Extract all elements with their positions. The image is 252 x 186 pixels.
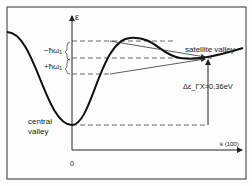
absorption-arrow — [110, 59, 205, 74]
brace-lower — [65, 59, 70, 74]
origin-label: 0 — [70, 160, 74, 167]
phonon-absorption-label: +ħω₁ — [44, 62, 62, 71]
border — [7, 7, 246, 179]
diagram-frame: ε −ħω₁ +ħω₁ satellite valley Δε_ΓX=0.36e… — [0, 0, 252, 186]
energy-axis-label: ε — [75, 12, 79, 22]
energy-gap-label: Δε_ΓX=0.36eV — [183, 82, 233, 91]
valley-diagram: ε −ħω₁ +ħω₁ satellite valley Δε_ΓX=0.36e… — [0, 0, 252, 186]
phonon-emission-label: −ħω₁ — [44, 46, 62, 55]
central-valley-label-2: valley — [28, 127, 48, 136]
central-valley-label-1: central — [28, 117, 52, 126]
brace-upper — [65, 42, 70, 60]
satellite-valley-label: satellite valley — [185, 45, 235, 54]
k-axis-label: k (100) — [220, 141, 239, 147]
